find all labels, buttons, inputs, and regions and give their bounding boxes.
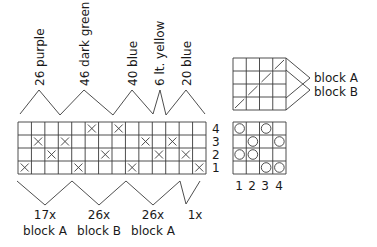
row-label-1: 1: [212, 161, 220, 175]
circle-mark: [275, 163, 285, 173]
circle-mark: [235, 124, 245, 134]
repeat-labels: 17x block A 26x block B 26x block A 1x: [23, 208, 202, 238]
symbol-key-grid: [233, 122, 286, 174]
x-mark: [128, 164, 136, 172]
x-mark: [142, 138, 150, 146]
circle-mark: [235, 150, 245, 160]
upper-section-brace: [20, 90, 205, 115]
repeat-block-2: block B: [77, 224, 121, 238]
row-labels: 4 3 2 1: [212, 122, 220, 175]
x-mark: [48, 151, 56, 159]
symbol-key-column-labels: 1 2 3 4: [235, 179, 283, 193]
block-a-label: block A: [314, 71, 359, 85]
circle-mark: [248, 150, 258, 160]
x-mark: [195, 164, 203, 172]
repeat-count-3: 26x: [142, 208, 164, 222]
repeat-block-1: block A: [23, 224, 68, 238]
x-mark: [88, 125, 96, 133]
block-key-chevrons: [286, 58, 310, 110]
x-mark: [74, 164, 82, 172]
row-label-4: 4: [212, 122, 220, 136]
color-label-blue-20: 20 blue: [180, 41, 194, 86]
block-b-label: block B: [314, 85, 358, 99]
x-mark: [155, 151, 163, 159]
repeat-count-2: 26x: [88, 208, 110, 222]
x-mark: [21, 164, 29, 172]
circle-mark: [275, 137, 285, 147]
color-label-purple: 26 purple: [33, 28, 47, 86]
x-mark: [61, 138, 69, 146]
block-key-grid: [233, 58, 286, 110]
diagonal-mark: [235, 99, 244, 108]
col-label-4: 4: [275, 179, 283, 193]
repeat-count-1: 17x: [34, 208, 56, 222]
circle-mark: [248, 137, 258, 147]
repeat-block-3: block A: [131, 224, 176, 238]
x-mark: [115, 125, 123, 133]
color-label-blue-40: 40 blue: [126, 41, 140, 86]
diagonal-mark: [275, 60, 284, 69]
col-label-1: 1: [235, 179, 243, 193]
main-chart-grid: [18, 122, 206, 174]
x-mark: [34, 138, 42, 146]
lower-repeat-brace: [17, 181, 200, 205]
circle-mark: [261, 163, 271, 173]
repeat-count-4: 1x: [188, 208, 203, 222]
col-label-3: 3: [261, 179, 269, 193]
x-mark: [168, 138, 176, 146]
diagonal-mark: [248, 86, 257, 95]
color-section-labels: 26 purple 46 dark green 40 blue 6 lt. ye…: [33, 2, 194, 86]
circle-mark: [261, 124, 271, 134]
row-label-3: 3: [212, 135, 220, 149]
color-label-lt-yellow: 6 lt. yellow: [153, 20, 167, 86]
col-label-2: 2: [248, 179, 256, 193]
color-label-dark-green: 46 dark green: [78, 2, 92, 86]
x-mark: [101, 151, 109, 159]
knitting-chart-diagram: 26 purple 46 dark green 40 blue 6 lt. ye…: [0, 0, 377, 247]
diagonal-mark: [262, 73, 271, 82]
x-mark: [182, 151, 190, 159]
row-label-2: 2: [212, 148, 220, 162]
